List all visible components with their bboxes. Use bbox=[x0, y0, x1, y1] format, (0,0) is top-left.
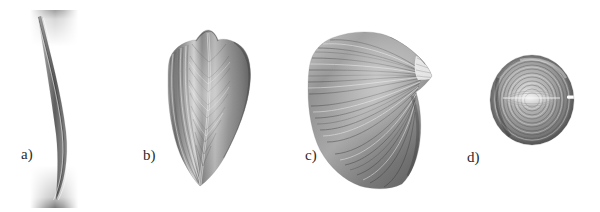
circular-sphincter-muscle-illustration bbox=[460, 0, 600, 212]
convergent-fan-muscle-illustration bbox=[270, 0, 460, 212]
panel-b: b) bbox=[130, 0, 270, 212]
strap-muscle-illustration bbox=[0, 0, 130, 212]
panel-label-c: c) bbox=[305, 148, 317, 163]
muscle-architecture-figure: a) bbox=[0, 0, 600, 212]
panel-label-b: b) bbox=[143, 148, 156, 163]
panel-label-d: d) bbox=[467, 150, 480, 165]
panel-label-a: a) bbox=[21, 147, 33, 162]
fusiform-muscle-illustration bbox=[130, 0, 270, 212]
panel-a: a) bbox=[0, 0, 130, 212]
panel-d: d) bbox=[460, 0, 600, 212]
panel-c: c) bbox=[270, 0, 460, 212]
